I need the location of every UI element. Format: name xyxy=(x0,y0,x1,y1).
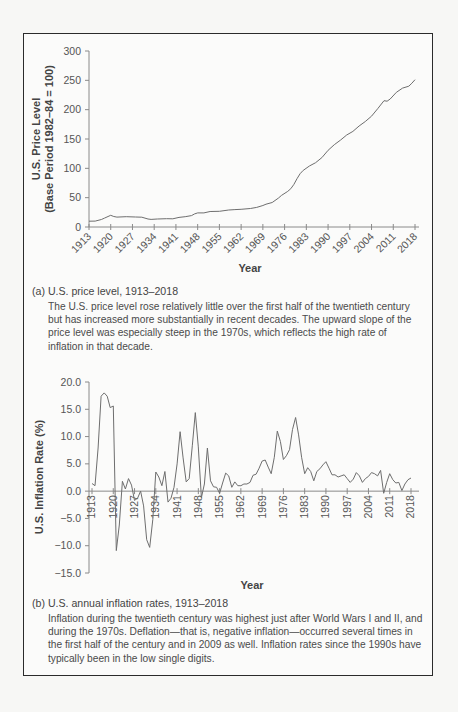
y-tick-label: 10.0 xyxy=(61,430,82,442)
x-tick-label: 2018 xyxy=(405,495,417,519)
x-tick-label: 2004 xyxy=(362,495,374,519)
x-tick-label: 1948 xyxy=(192,495,204,519)
panel-b-caption-title: (b) U.S. annual inflation rates, 1913–20… xyxy=(32,597,228,609)
inflation-rate-line xyxy=(92,393,411,551)
x-tick-label: 1955 xyxy=(213,495,225,519)
x-tick-label: 1913 xyxy=(86,495,98,519)
y-tick-label: −10.0 xyxy=(54,539,81,551)
x-tick-label: 1990 xyxy=(319,495,331,519)
x-tick-label: 1969 xyxy=(256,495,268,519)
y-tick-label: −5.0 xyxy=(60,512,81,524)
x-axis-title: Year xyxy=(240,579,264,591)
y-tick-label: 0.0 xyxy=(66,485,81,497)
x-tick-label: 1962 xyxy=(234,495,246,519)
panel-a-caption-body: The U.S. price level rose relatively lit… xyxy=(48,300,424,353)
x-tick-label: 1983 xyxy=(298,495,310,519)
y-tick-label: 15.0 xyxy=(61,403,82,415)
x-tick-label: 1934 xyxy=(149,495,161,519)
y-tick-label: 5.0 xyxy=(66,457,81,469)
y-tick-label: −15.0 xyxy=(54,567,81,579)
x-tick-label: 1976 xyxy=(277,495,289,519)
panel-a-caption-title: (a) U.S. price level, 1913–2018 xyxy=(32,285,178,297)
x-tick-label: 1920 xyxy=(107,495,119,519)
y-axis-title: U.S. Inflation Rate (%) xyxy=(33,420,45,535)
x-tick-label: 1941 xyxy=(171,495,183,519)
y-tick-label: 20.0 xyxy=(61,376,82,388)
panel-b-caption-body: Inflation during the twentieth century w… xyxy=(48,612,424,665)
x-tick-label: 2011 xyxy=(383,495,395,518)
x-tick-label: 1997 xyxy=(341,495,353,519)
